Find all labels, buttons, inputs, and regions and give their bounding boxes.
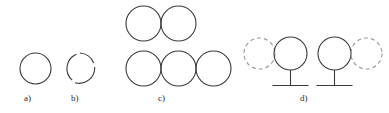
circle-solid (20, 53, 51, 84)
panel-d-right-group (317, 37, 383, 86)
circle-solid-gapped-arc-2 (80, 53, 94, 63)
panel-label-d: d) (300, 94, 308, 103)
circle-solid-gapped-arc-1 (67, 54, 76, 80)
circle-bottom-right (196, 51, 231, 86)
figure-canvas (0, 0, 389, 113)
circle-bottom-middle (161, 51, 196, 86)
circle-bottom-left (126, 51, 161, 86)
panel-label-a: a) (24, 94, 31, 103)
circle-top-right (161, 6, 196, 41)
circle-solid-gapped-arc-3 (75, 67, 95, 83)
circle-solid-left-stemmed (274, 37, 307, 70)
circle-top-left (126, 6, 161, 41)
circle-dashed-right (351, 38, 382, 69)
panel-b-group (67, 53, 95, 83)
panel-label-c: c) (158, 94, 165, 103)
panel-a-group (20, 53, 51, 84)
panel-c-group (126, 6, 231, 86)
circle-solid-right-stemmed (318, 37, 351, 70)
panel-d-left-group (244, 37, 309, 86)
figure-root: a) b) c) d) (0, 0, 389, 113)
circle-dashed-left (244, 38, 275, 69)
panel-label-b: b) (71, 94, 79, 103)
